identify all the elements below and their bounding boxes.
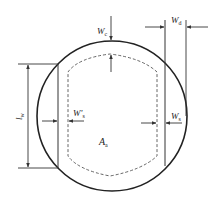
label-ws: Ws xyxy=(171,111,182,122)
label-ws-prime: W's xyxy=(73,108,85,119)
label-lw: lw xyxy=(14,112,25,120)
label-wc: Wc xyxy=(97,26,108,37)
cross-section-diagram: Wc Wd lw W's Ws Aa xyxy=(0,0,221,208)
label-aa: Aa xyxy=(98,136,108,148)
label-wd: Wd xyxy=(171,15,182,26)
